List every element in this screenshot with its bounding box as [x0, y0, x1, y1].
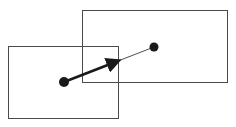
overlapping-rectangles-diagram [0, 0, 236, 127]
end-point-dot [150, 43, 159, 52]
displacement-arrow [64, 61, 118, 82]
start-point-dot [59, 77, 69, 87]
